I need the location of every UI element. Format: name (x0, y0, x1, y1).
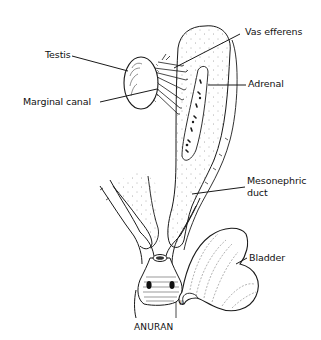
bladder-organ: JL (176, 228, 258, 318)
testis-organ (124, 57, 159, 109)
diagram-caption: ANURAN (134, 322, 173, 332)
label-mesonephric-duct-line2: duct (247, 187, 268, 198)
label-bladder: Bladder (249, 252, 285, 263)
label-mesonephric-duct-line1: Mesonephric (247, 175, 306, 186)
artist-signature: JL (179, 299, 184, 305)
label-adrenal: Adrenal (248, 78, 284, 89)
label-marginal-canal: Marginal canal (23, 96, 91, 107)
label-vas-efferens: Vas efferens (245, 26, 302, 37)
label-testis: Testis (45, 49, 71, 60)
testis-leader-line (72, 56, 128, 71)
cloaca (135, 255, 183, 319)
left-kidney (113, 172, 160, 249)
